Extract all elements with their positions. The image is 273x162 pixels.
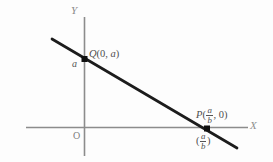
y-axis-label: Y [71,5,77,16]
point-p-close-paren: ) [224,109,228,120]
point-marker-q [82,56,88,62]
point-p-open-paren: ( [202,109,206,120]
origin-label: O [73,131,80,141]
x-intercept-fraction: a b [200,132,206,152]
point-q-close-paren: ) [116,48,120,59]
x-intercept-tick-label: ( a b ) [196,132,210,152]
point-q-label: Q(0, a) [89,49,119,60]
x-axis-label: X [250,120,257,131]
x-intercept-numerator: a [200,132,206,141]
x-intercept-close-paren: ) [207,135,211,146]
point-p-fraction: a b [206,106,212,126]
point-q-name: Q [89,48,97,59]
point-p-denominator: b [206,116,212,125]
x-intercept-denominator: b [200,142,206,151]
coordinate-plane-svg [0,0,273,162]
point-p-label: P( a b , 0) [196,106,227,126]
x-intercept-open-paren: ( [196,135,200,146]
point-p-numerator: a [206,106,212,115]
y-intercept-tick-label: a [72,59,77,69]
linear-graph-figure: Y X O a Q(0, a) P( a b , 0) ( a b ) [0,0,273,162]
